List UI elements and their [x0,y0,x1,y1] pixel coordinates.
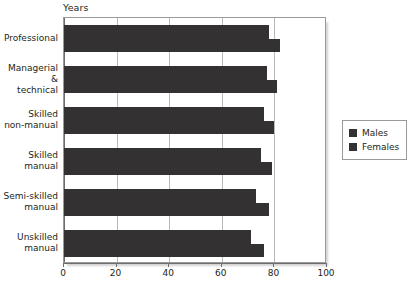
gridline-0 [64,18,65,262]
legend-label-males: Males [362,128,388,138]
legend-label-females: Females [362,142,399,152]
bar-males-0 [64,25,269,39]
bar-males-4 [64,189,256,203]
bar-females-5 [64,244,264,258]
bar-males-3 [64,148,261,162]
tick-label-80: 80 [268,268,279,278]
legend-swatch-females [349,143,357,151]
category-label-0: Professional [4,32,58,43]
bar-females-2 [64,121,274,135]
x-axis-line [63,263,326,264]
tick-mark-0 [63,263,64,267]
legend-item-males[interactable]: Males [349,126,399,140]
category-label-5: Unskilled manual [17,232,58,254]
legend-swatch-males [349,129,357,137]
x-axis-title: Years [63,2,89,13]
category-label-2: Skilled non-manual [4,109,58,131]
tick-label-20: 20 [110,268,121,278]
bar-females-3 [64,162,272,176]
category-label-4: Semi-skilled manual [4,191,58,213]
gridline-80 [274,18,275,262]
tick-mark-80 [273,263,274,267]
bar-females-0 [64,39,280,53]
tick-label-0: 0 [60,268,66,278]
plot-area [63,17,326,263]
tick-label-40: 40 [162,268,173,278]
tick-label-60: 60 [215,268,226,278]
tick-mark-20 [116,263,117,267]
category-label-3: Skilled manual [0,150,58,172]
gridline-60 [222,18,223,262]
bar-chart: Years 020406080100 ProfessionalManageria… [0,0,410,283]
tick-label-100: 100 [317,268,334,278]
bar-females-1 [64,80,277,94]
bar-females-4 [64,203,269,217]
legend-item-females[interactable]: Females [349,140,399,154]
tick-mark-100 [326,263,327,267]
tick-mark-40 [168,263,169,267]
bar-males-1 [64,66,267,80]
bar-males-2 [64,107,264,121]
gridline-40 [169,18,170,262]
category-label-1: Managerial & technical [0,62,58,95]
gridline-20 [117,18,118,262]
chart-legend: Males Females [342,120,407,160]
bar-males-5 [64,230,251,244]
tick-mark-60 [221,263,222,267]
